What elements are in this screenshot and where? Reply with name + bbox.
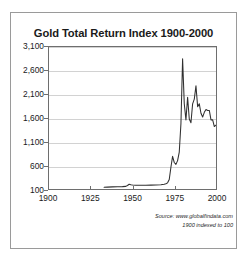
y-tick-label-1100: 1,100 (0, 137, 44, 147)
y-tick-label-3100: 3,100 (0, 41, 44, 51)
x-tick-mark-1925 (90, 186, 91, 190)
y-tick-label-600: 600 (0, 161, 44, 171)
x-tick-label-1900: 1900 (28, 193, 68, 203)
source-line-url: Source: www.globalfindata.com (100, 212, 233, 221)
x-tick-mark-1950 (133, 186, 134, 190)
x-tick-label-1950: 1950 (113, 193, 153, 203)
x-axis: 19001925195019752000 (48, 193, 217, 207)
x-tick-mark-1975 (175, 186, 176, 190)
source-line-index-base: 1900 indexed to 100 (100, 221, 233, 230)
chart-figure: Gold Total Return Index 1900-2000 100600… (0, 0, 247, 262)
y-tick-mark-100 (44, 190, 48, 191)
source-note: Source: www.globalfindata.com 1900 index… (100, 212, 233, 229)
y-axis: 1006001,1001,6002,1002,6003,100 (0, 46, 44, 190)
x-tick-label-2000: 2000 (197, 193, 237, 203)
plot-area (48, 46, 217, 190)
y-tick-label-2600: 2,600 (0, 65, 44, 75)
series-line-gold-total-return-index (49, 47, 216, 189)
x-tick-label-1975: 1975 (155, 193, 195, 203)
y-tick-label-2100: 2,100 (0, 89, 44, 99)
x-tick-label-1925: 1925 (70, 193, 110, 203)
chart-title: Gold Total Return Index 1900-2000 (20, 27, 227, 39)
y-tick-label-1600: 1,600 (0, 113, 44, 123)
